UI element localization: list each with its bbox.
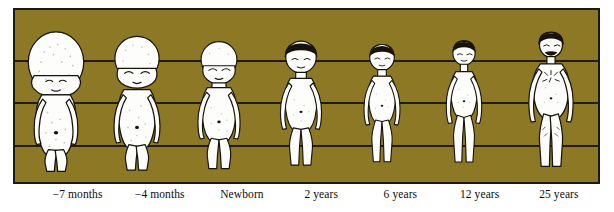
figure-fetus-7-months [15,10,97,182]
age-label-fetus-7-months: −7 months [53,188,103,200]
growth-proportions-figure: −7 months −4 months Newborn 2 years 6 ye… [0,0,614,212]
figure-age-2 [260,10,342,182]
age-label-age-25: 25 years [539,188,578,200]
figure-newborn [178,10,260,182]
age-label-fetus-4-months: −4 months [135,188,185,200]
figure-fetus-4-months [97,10,179,182]
age-label-newborn: Newborn [220,188,264,200]
age-label-age-6: 6 years [384,188,418,200]
figure-age-25 [505,10,598,182]
figure-age-12 [423,10,505,182]
age-label-age-12: 12 years [460,188,499,200]
figure-age-6 [341,10,423,182]
panel-inner [15,10,598,182]
illustration-panel [13,8,600,184]
age-label-strip: −7 months −4 months Newborn 2 years 6 ye… [13,188,600,208]
age-label-age-2: 2 years [304,188,338,200]
